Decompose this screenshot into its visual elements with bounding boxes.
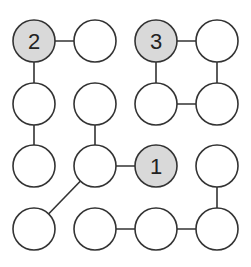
nodes-layer: 231: [13, 20, 238, 250]
node-r1c2[interactable]: [135, 83, 177, 125]
edges-layer: [34, 41, 217, 229]
node-r3c3[interactable]: [196, 208, 238, 250]
empty-node-circle[interactable]: [196, 208, 238, 250]
node-r2c1[interactable]: [74, 145, 116, 187]
empty-node-circle[interactable]: [135, 208, 177, 250]
node-r0c2[interactable]: 3: [135, 20, 177, 62]
node-r2c3[interactable]: [196, 145, 238, 187]
node-r0c1[interactable]: [74, 20, 116, 62]
node-r2c0[interactable]: [13, 145, 55, 187]
node-clue-number: 3: [150, 29, 162, 54]
empty-node-circle[interactable]: [13, 145, 55, 187]
node-r2c2[interactable]: 1: [135, 145, 177, 187]
empty-node-circle[interactable]: [13, 208, 55, 250]
node-r1c1[interactable]: [74, 83, 116, 125]
node-clue-number: 1: [150, 154, 162, 179]
empty-node-circle[interactable]: [196, 20, 238, 62]
empty-node-circle[interactable]: [196, 83, 238, 125]
node-r3c2[interactable]: [135, 208, 177, 250]
puzzle-board: 231: [0, 0, 251, 267]
empty-node-circle[interactable]: [74, 20, 116, 62]
node-r0c0[interactable]: 2: [13, 20, 55, 62]
empty-node-circle[interactable]: [74, 83, 116, 125]
node-r3c1[interactable]: [74, 208, 116, 250]
empty-node-circle[interactable]: [13, 83, 55, 125]
node-r3c0[interactable]: [13, 208, 55, 250]
empty-node-circle[interactable]: [196, 145, 238, 187]
node-r1c3[interactable]: [196, 83, 238, 125]
empty-node-circle[interactable]: [74, 145, 116, 187]
node-r0c3[interactable]: [196, 20, 238, 62]
empty-node-circle[interactable]: [135, 83, 177, 125]
node-r1c0[interactable]: [13, 83, 55, 125]
puzzle-canvas: 231: [0, 0, 251, 267]
empty-node-circle[interactable]: [74, 208, 116, 250]
node-clue-number: 2: [28, 29, 40, 54]
